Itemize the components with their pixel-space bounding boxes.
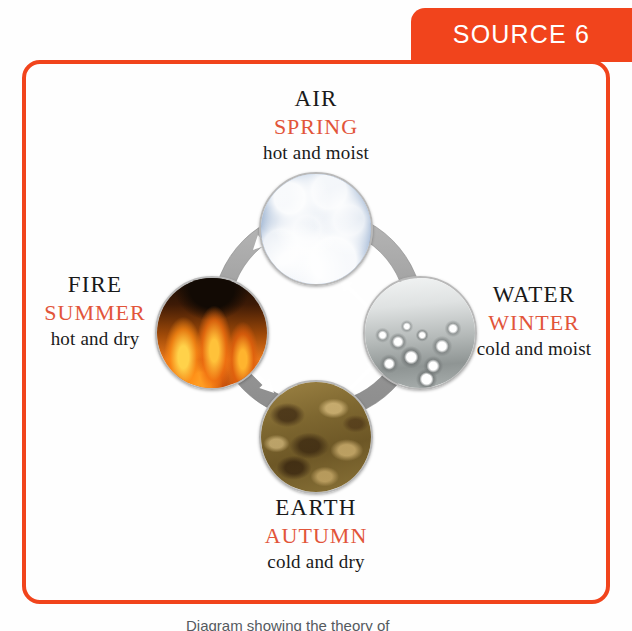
sky-clouds-photo — [261, 174, 371, 284]
element-circle-air — [259, 172, 373, 286]
label-block-earth: EARTH AUTUMN cold and dry — [186, 494, 446, 573]
season-name-spring: SPRING — [186, 114, 446, 140]
label-block-water: WATER WINTER cold and moist — [458, 281, 610, 360]
quality-fire: hot and dry — [22, 328, 168, 350]
season-name-autumn: AUTUMN — [186, 523, 446, 549]
quality-earth: cold and dry — [186, 551, 446, 573]
elements-diagram: AIR SPRING hot and moist FIRE SUMMER hot… — [22, 60, 610, 604]
season-name-winter: WINTER — [458, 310, 610, 336]
element-circle-fire — [155, 276, 269, 390]
quality-air: hot and moist — [186, 142, 446, 164]
page-root: SOURCE 6 — [0, 0, 632, 631]
flames-photo — [157, 278, 267, 388]
label-block-air: AIR SPRING hot and moist — [186, 85, 446, 164]
source-tab: SOURCE 6 — [411, 8, 632, 62]
soil-photo — [261, 382, 371, 492]
element-circle-earth — [259, 380, 373, 494]
element-name-water: WATER — [458, 281, 610, 308]
figure-caption: Diagram showing the theory of — [186, 617, 606, 631]
element-name-fire: FIRE — [22, 271, 168, 298]
quality-water: cold and moist — [458, 338, 610, 360]
source-tab-label: SOURCE 6 — [453, 20, 590, 49]
element-name-air: AIR — [186, 85, 446, 112]
season-name-summer: SUMMER — [22, 300, 168, 326]
element-name-earth: EARTH — [186, 494, 446, 521]
label-block-fire: FIRE SUMMER hot and dry — [22, 271, 168, 350]
